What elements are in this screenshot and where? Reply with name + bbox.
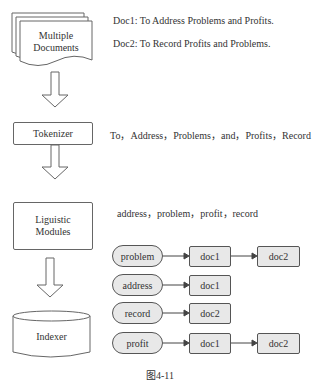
diagram-canvas: Multiple Documents Doc1: To Address Prob…	[0, 0, 320, 385]
doc1-sentence: Doc1: To Address Problems and Profits.	[113, 15, 274, 26]
down-arrow-icon	[42, 145, 68, 179]
token-list: To，Address，Problems，and，Profits，Record	[110, 127, 311, 142]
term-address: address	[112, 274, 163, 296]
indexer-label: Indexer	[13, 331, 90, 342]
down-arrow-icon	[42, 72, 68, 107]
term-problem: problem	[112, 245, 163, 267]
term-list: address，problem，profit，record	[117, 205, 258, 220]
down-arrow-icon	[37, 258, 63, 297]
tokenizer-box: Tokenizer	[13, 122, 93, 145]
documents-label-line2: Documents	[20, 42, 92, 54]
posting-doc: doc1	[189, 246, 231, 267]
documents-label: Multiple Documents	[20, 30, 92, 54]
term-profit: profit	[112, 332, 163, 354]
posting-doc: doc1	[189, 333, 231, 354]
linguistic-modules-box: Liguistic Modules	[13, 202, 93, 250]
linguistic-label-line2: Modules	[36, 226, 71, 238]
figure-caption: 图4-11	[0, 367, 320, 382]
posting-doc: doc1	[189, 275, 231, 296]
posting-doc: doc2	[257, 246, 300, 267]
linguistic-label-line1: Liguistic	[35, 214, 71, 226]
posting-doc: doc2	[257, 333, 300, 354]
doc2-sentence: Doc2: To Record Profits and Problems.	[113, 38, 270, 49]
documents-label-line1: Multiple	[20, 30, 92, 42]
diagram-shapes	[0, 0, 320, 385]
term-record: record	[112, 302, 163, 324]
posting-doc: doc2	[189, 303, 231, 324]
